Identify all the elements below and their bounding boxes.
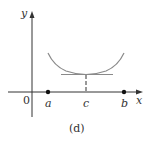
point-b-label: b — [121, 97, 128, 110]
rolle-theorem-figure: y x 0 a c b (d) — [0, 0, 147, 144]
y-axis-label: y — [20, 7, 28, 20]
figure-caption: (d) — [69, 122, 85, 135]
y-axis-arrow-icon — [30, 11, 35, 18]
origin-label: 0 — [23, 94, 30, 107]
x-axis-label: x — [136, 94, 143, 107]
point-a-label: a — [45, 97, 52, 110]
function-curve — [48, 53, 124, 75]
point-b — [122, 90, 126, 94]
point-a — [46, 90, 50, 94]
point-c-label: c — [83, 97, 89, 110]
